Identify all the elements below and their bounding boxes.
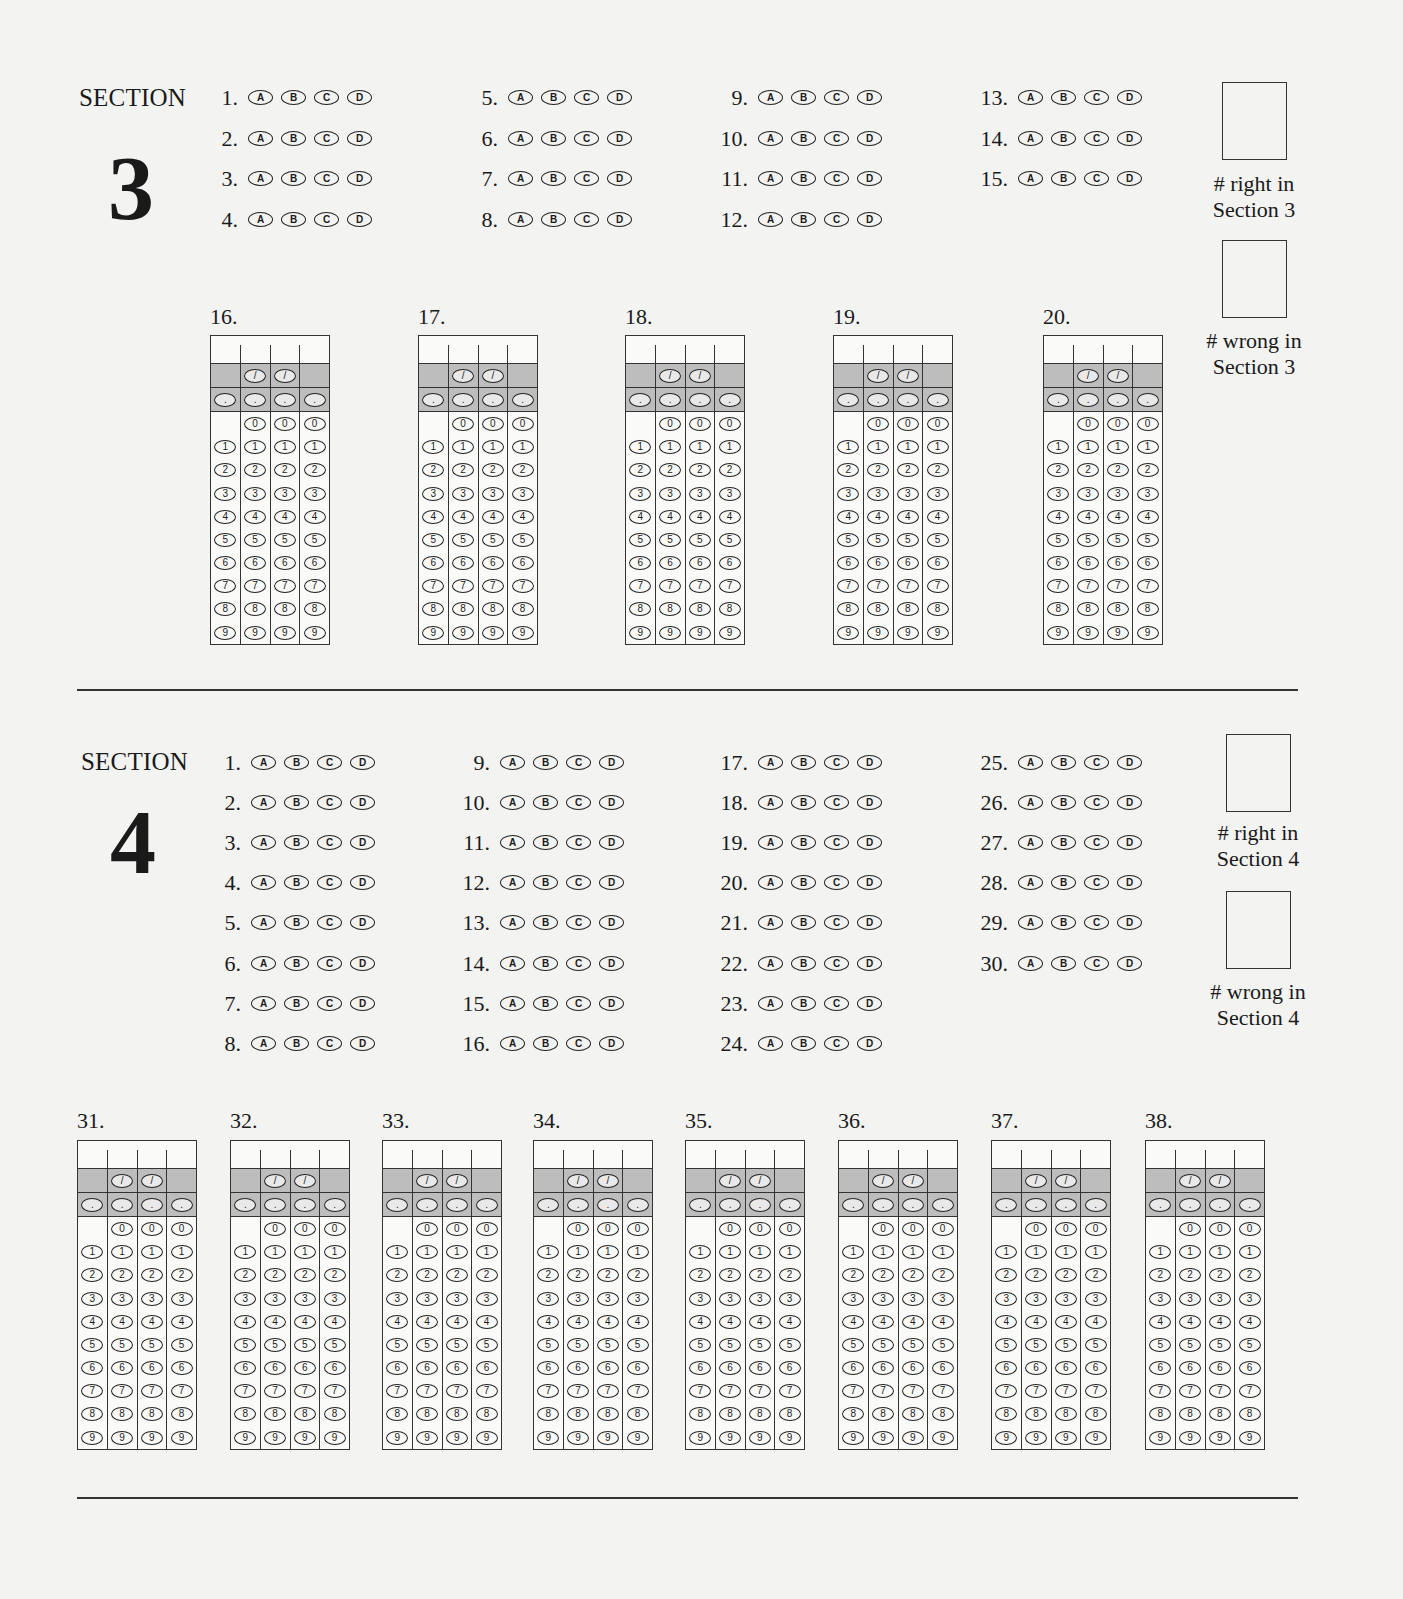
decimal-bubble[interactable]: .: [689, 1198, 711, 1212]
answer-bubble-c[interactable]: C: [314, 212, 339, 227]
digit-bubble-5[interactable]: 5: [779, 1338, 801, 1352]
digit-bubble-3[interactable]: 3: [927, 487, 949, 501]
digit-bubble-9[interactable]: 9: [927, 626, 949, 640]
digit-bubble-1[interactable]: 1: [779, 1245, 801, 1259]
digit-bubble-2[interactable]: 2: [234, 1268, 256, 1282]
write-in-box[interactable]: [839, 1150, 868, 1168]
digit-bubble-6[interactable]: 6: [512, 556, 534, 570]
digit-bubble-3[interactable]: 3: [749, 1292, 771, 1306]
decimal-bubble[interactable]: .: [872, 1198, 894, 1212]
digit-bubble-9[interactable]: 9: [452, 626, 474, 640]
digit-bubble-3[interactable]: 3: [1107, 487, 1129, 501]
digit-bubble-5[interactable]: 5: [244, 533, 266, 547]
digit-bubble-3[interactable]: 3: [932, 1292, 954, 1306]
digit-bubble-8[interactable]: 8: [1047, 602, 1069, 616]
digit-bubble-0[interactable]: 0: [897, 417, 919, 431]
digit-bubble-5[interactable]: 5: [842, 1338, 864, 1352]
digit-bubble-3[interactable]: 3: [567, 1292, 589, 1306]
write-in-box[interactable]: [745, 1150, 775, 1168]
digit-bubble-6[interactable]: 6: [567, 1361, 589, 1375]
digit-bubble-7[interactable]: 7: [81, 1384, 103, 1398]
answer-bubble-c[interactable]: C: [1084, 131, 1109, 146]
digit-bubble-2[interactable]: 2: [567, 1268, 589, 1282]
digit-bubble-2[interactable]: 2: [1137, 463, 1159, 477]
digit-bubble-1[interactable]: 1: [244, 440, 266, 454]
digit-bubble-9[interactable]: 9: [627, 1431, 649, 1445]
digit-bubble-0[interactable]: 0: [512, 417, 534, 431]
digit-bubble-4[interactable]: 4: [274, 510, 296, 524]
write-in-box[interactable]: [442, 1150, 472, 1168]
digit-bubble-1[interactable]: 1: [1085, 1245, 1107, 1259]
answer-bubble-b[interactable]: B: [533, 1036, 558, 1051]
digit-bubble-1[interactable]: 1: [902, 1245, 924, 1259]
digit-bubble-1[interactable]: 1: [1047, 440, 1069, 454]
answer-bubble-d[interactable]: D: [350, 835, 375, 850]
digit-bubble-9[interactable]: 9: [1025, 1431, 1047, 1445]
write-in-box[interactable]: [774, 1150, 804, 1168]
write-in-box[interactable]: [714, 345, 744, 363]
digit-bubble-3[interactable]: 3: [274, 487, 296, 501]
decimal-bubble[interactable]: .: [1149, 1198, 1171, 1212]
digit-bubble-7[interactable]: 7: [264, 1384, 286, 1398]
digit-bubble-1[interactable]: 1: [627, 1245, 649, 1259]
digit-bubble-0[interactable]: 0: [1077, 417, 1099, 431]
digit-bubble-0[interactable]: 0: [1209, 1222, 1231, 1236]
fraction-bubble[interactable]: /: [1055, 1174, 1077, 1188]
fraction-bubble[interactable]: /: [872, 1174, 894, 1188]
digit-bubble-6[interactable]: 6: [1179, 1361, 1201, 1375]
digit-bubble-8[interactable]: 8: [867, 602, 889, 616]
answer-bubble-a[interactable]: A: [758, 956, 783, 971]
digit-bubble-5[interactable]: 5: [897, 533, 919, 547]
digit-bubble-5[interactable]: 5: [659, 533, 681, 547]
digit-bubble-8[interactable]: 8: [689, 602, 711, 616]
digit-bubble-9[interactable]: 9: [995, 1431, 1017, 1445]
fraction-bubble[interactable]: /: [1077, 369, 1099, 383]
digit-bubble-5[interactable]: 5: [627, 1338, 649, 1352]
write-in-box[interactable]: [1044, 345, 1073, 363]
answer-bubble-b[interactable]: B: [791, 171, 816, 186]
digit-bubble-3[interactable]: 3: [842, 1292, 864, 1306]
digit-bubble-6[interactable]: 6: [902, 1361, 924, 1375]
digit-bubble-9[interactable]: 9: [476, 1431, 498, 1445]
digit-bubble-7[interactable]: 7: [749, 1384, 771, 1398]
digit-bubble-9[interactable]: 9: [537, 1431, 559, 1445]
answer-bubble-c[interactable]: C: [1084, 915, 1109, 930]
digit-bubble-5[interactable]: 5: [324, 1338, 346, 1352]
digit-bubble-9[interactable]: 9: [81, 1431, 103, 1445]
digit-bubble-3[interactable]: 3: [294, 1292, 316, 1306]
digit-bubble-6[interactable]: 6: [659, 556, 681, 570]
fraction-bubble[interactable]: /: [659, 369, 681, 383]
digit-bubble-9[interactable]: 9: [1055, 1431, 1077, 1445]
digit-bubble-1[interactable]: 1: [629, 440, 651, 454]
digit-bubble-5[interactable]: 5: [111, 1338, 133, 1352]
digit-bubble-7[interactable]: 7: [452, 579, 474, 593]
digit-bubble-2[interactable]: 2: [927, 463, 949, 477]
decimal-bubble[interactable]: .: [1055, 1198, 1077, 1212]
decimal-bubble[interactable]: .: [234, 1198, 256, 1212]
fraction-bubble[interactable]: /: [867, 369, 889, 383]
digit-bubble-9[interactable]: 9: [171, 1431, 193, 1445]
answer-bubble-a[interactable]: A: [1018, 835, 1043, 850]
digit-bubble-9[interactable]: 9: [446, 1431, 468, 1445]
digit-bubble-5[interactable]: 5: [689, 533, 711, 547]
answer-bubble-d[interactable]: D: [607, 90, 632, 105]
digit-bubble-7[interactable]: 7: [416, 1384, 438, 1398]
digit-bubble-2[interactable]: 2: [842, 1268, 864, 1282]
digit-bubble-0[interactable]: 0: [482, 417, 504, 431]
answer-bubble-d[interactable]: D: [347, 171, 372, 186]
digit-bubble-5[interactable]: 5: [452, 533, 474, 547]
digit-bubble-8[interactable]: 8: [1209, 1407, 1231, 1421]
digit-bubble-6[interactable]: 6: [141, 1361, 163, 1375]
digit-bubble-4[interactable]: 4: [689, 1315, 711, 1329]
digit-bubble-0[interactable]: 0: [872, 1222, 894, 1236]
decimal-bubble[interactable]: .: [304, 393, 326, 407]
digit-bubble-9[interactable]: 9: [1107, 626, 1129, 640]
digit-bubble-1[interactable]: 1: [141, 1245, 163, 1259]
decimal-bubble[interactable]: .: [627, 1198, 649, 1212]
digit-bubble-0[interactable]: 0: [867, 417, 889, 431]
decimal-bubble[interactable]: .: [264, 1198, 286, 1212]
fraction-bubble[interactable]: /: [567, 1174, 589, 1188]
digit-bubble-9[interactable]: 9: [659, 626, 681, 640]
write-in-box[interactable]: [686, 1150, 715, 1168]
digit-bubble-7[interactable]: 7: [719, 1384, 741, 1398]
